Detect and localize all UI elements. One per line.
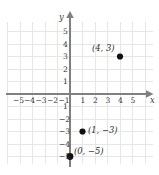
x-tick-label-neg3: −3 [36,97,47,105]
x-tick-label-1: 1 [81,97,86,105]
y-tick-label-neg5: −5 [59,153,70,161]
coordinate-plane-figure: y x −5 −4 −3 −2 −1 1 2 3 4 5 5 4 3 2 1 1… [0,0,159,175]
data-point-1-neg3 [79,128,85,134]
y-tick-label-neg1: 1 [63,103,68,111]
y-tick-label-1: 1 [63,78,68,86]
y-tick-label-3: 3 [63,53,68,61]
y-axis-arrowhead [66,11,74,18]
point-label-4-3: (4, 3) [92,44,115,52]
x-tick-label-4: 4 [118,97,123,105]
y-tick-label-5: 5 [63,28,68,36]
y-tick-label-neg3: −3 [59,128,70,136]
y-tick-label-2: 2 [63,66,68,74]
y-axis-label: y [59,13,64,21]
point-label-1-neg3: (1, −3) [88,126,118,134]
y-tick-label-neg4: −4 [59,141,70,149]
x-axis-label: x [150,96,155,104]
x-tick-label-3: 3 [106,97,111,105]
x-tick-label-neg5: −5 [13,97,24,105]
point-label-0-neg5: (0, −5) [74,147,104,155]
grid-vertical-lines [8,22,146,164]
x-tick-label-5: 5 [131,97,136,105]
x-tick-label-neg4: −4 [24,97,35,105]
x-tick-label-neg2: −2 [47,97,58,105]
data-point-4-3 [117,53,123,59]
x-tick-label-2: 2 [93,97,98,105]
y-tick-label-neg2: −2 [59,116,70,124]
y-tick-label-4: 4 [63,41,68,49]
